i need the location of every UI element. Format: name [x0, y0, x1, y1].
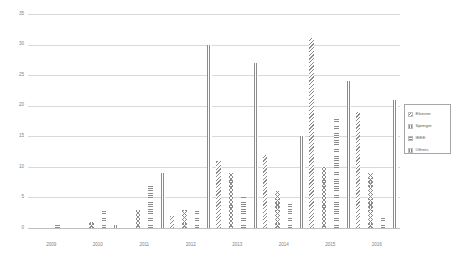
legend-label: Elsevier	[416, 112, 431, 116]
legend-label: Springer	[416, 124, 432, 128]
bar-ieee-2015	[334, 118, 339, 228]
bar-others-2012	[207, 45, 212, 228]
legend-label: IEEE	[416, 136, 426, 140]
bar-springer-2014	[275, 191, 280, 228]
y-tick-label-0: 0	[4, 226, 24, 231]
x-tick-label-2010: 2010	[75, 243, 122, 248]
bar-elsevier-2015	[309, 38, 314, 228]
chart-legend: ElsevierSpringerIEEEOthers	[404, 104, 451, 154]
legend-swatch-ieee-icon	[408, 136, 413, 141]
x-tick-label-2012: 2012	[168, 243, 215, 248]
bar-elsevier-2012	[170, 216, 175, 228]
y-tick-label-25: 25	[4, 73, 24, 78]
bar-chart: 05101520253035 2009201020112012201320142…	[0, 0, 456, 254]
bar-springer-2016	[368, 173, 373, 228]
legend-swatch-springer-icon	[408, 124, 413, 129]
y-tick-label-10: 10	[4, 165, 24, 170]
bar-others-2014	[300, 136, 305, 228]
bar-group-2016	[354, 14, 401, 228]
bar-elsevier-2014	[263, 155, 268, 228]
bar-ieee-2016	[381, 216, 386, 228]
legend-swatch-others-icon	[408, 148, 413, 153]
gridline-0	[28, 228, 400, 229]
legend-item-elsevier[interactable]: Elsevier	[408, 108, 448, 120]
legend-label: Others	[416, 148, 429, 152]
x-tick-label-2015: 2015	[307, 243, 354, 248]
bar-ieee-2012	[195, 210, 200, 228]
bar-elsevier-2016	[356, 112, 361, 228]
x-tick-label-2013: 2013	[214, 243, 261, 248]
x-tick-label-2014: 2014	[261, 243, 308, 248]
bar-ieee-2014	[288, 204, 293, 228]
x-tick-label-2011: 2011	[121, 243, 168, 248]
bar-group-2012	[168, 14, 215, 228]
bar-springer-2015	[322, 167, 327, 228]
bar-elsevier-2013	[216, 161, 221, 228]
bar-others-2015	[347, 81, 352, 228]
y-tick-label-35: 35	[4, 12, 24, 17]
bar-others-2016	[393, 100, 398, 228]
bar-group-2011	[121, 14, 168, 228]
bar-ieee-2011	[148, 185, 153, 228]
bar-group-2010	[75, 14, 122, 228]
bar-group-2014	[261, 14, 308, 228]
legend-item-springer[interactable]: Springer	[408, 120, 448, 132]
bar-springer-2010	[89, 222, 94, 228]
bar-group-2009	[28, 14, 75, 228]
bar-springer-2011	[136, 210, 141, 228]
bar-ieee-2010	[102, 210, 107, 228]
x-tick-label-2016: 2016	[354, 243, 401, 248]
bar-group-2013	[214, 14, 261, 228]
legend-item-others[interactable]: Others	[408, 144, 448, 156]
legend-item-ieee[interactable]: IEEE	[408, 132, 448, 144]
bar-ieee-2009	[55, 225, 60, 228]
bar-ieee-2013	[241, 197, 246, 228]
y-tick-label-15: 15	[4, 134, 24, 139]
bar-springer-2013	[229, 173, 234, 228]
bar-others-2013	[254, 63, 259, 228]
legend-items: ElsevierSpringerIEEEOthers	[408, 108, 448, 156]
bar-others-2010	[114, 225, 119, 228]
y-tick-label-5: 5	[4, 195, 24, 200]
plot-area	[28, 14, 400, 228]
legend-swatch-elsevier-icon	[408, 112, 413, 117]
y-tick-label-20: 20	[4, 103, 24, 108]
bar-others-2011	[161, 173, 166, 228]
bar-group-2015	[307, 14, 354, 228]
y-tick-label-30: 30	[4, 42, 24, 47]
x-tick-label-2009: 2009	[28, 243, 75, 248]
bar-springer-2012	[182, 210, 187, 228]
